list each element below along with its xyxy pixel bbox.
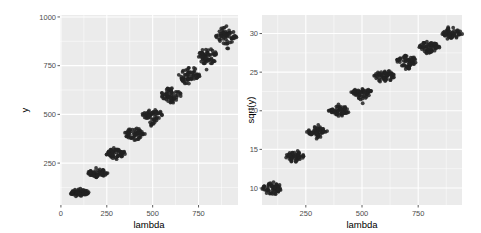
y-tick-label: 25: [250, 68, 258, 77]
panel-y: 02505007502505007501000lambday: [19, 13, 238, 230]
y-tick-label: 15: [250, 145, 258, 154]
x-axis-title: lambda: [133, 219, 165, 230]
y-axis-title: y: [19, 107, 30, 112]
x-tick-label: 0: [59, 209, 63, 218]
y-tick-label: 10: [250, 184, 258, 193]
y-tick-label: 500: [43, 110, 56, 119]
panel-sqrt-y: 2505007501015202530lambdasqrt(y): [245, 15, 464, 230]
x-tick-label: 500: [356, 209, 369, 218]
chart-figure: 02505007502505007501000lambday2505007501…: [0, 0, 481, 233]
y-tick-label: 750: [43, 61, 56, 70]
y-tick-label: 30: [250, 29, 258, 38]
x-tick-label: 250: [101, 209, 114, 218]
x-tick-label: 750: [192, 209, 205, 218]
x-tick-label: 250: [300, 209, 313, 218]
y-tick-label: 250: [43, 159, 56, 168]
x-axis-title: lambda: [346, 219, 378, 230]
y-axis-title: sqrt(y): [245, 97, 256, 124]
x-tick-label: 500: [146, 209, 159, 218]
y-tick-label: 1000: [39, 13, 56, 22]
x-tick-label: 750: [412, 209, 425, 218]
